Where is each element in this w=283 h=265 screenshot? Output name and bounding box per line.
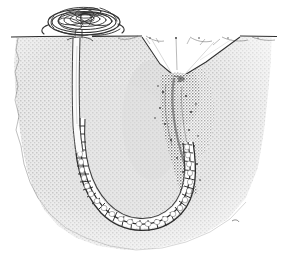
stem-fill [75,38,79,152]
ground-line-right [240,36,277,37]
soil-cross-section-illustration [0,0,283,265]
illustration-figure: Soil cross-section with coiled cord, bur… [0,0,283,265]
